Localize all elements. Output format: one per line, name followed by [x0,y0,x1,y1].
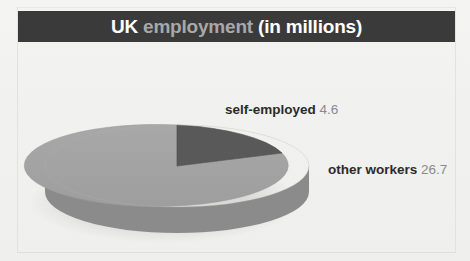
slice-label-self-employed: self-employed 4.6 [225,103,338,117]
pie-chart-svg [18,43,455,252]
title-subject: employment [143,16,253,37]
slice-label-other-workers-name: other workers [328,162,417,177]
slice-label-other-workers-value: 26.7 [421,162,447,177]
title-brand: UK [111,16,138,37]
plot-area: self-employed 4.6 other workers 26.7 [18,43,455,252]
frame-rule-top [17,7,456,8]
page-title: UK employment (in millions) [111,17,362,36]
slice-label-self-employed-value: 4.6 [320,102,339,117]
slice-label-self-employed-name: self-employed [225,102,316,117]
title-unit: (in millions) [258,16,362,37]
frame-rule-bottom [17,252,456,253]
slice-label-other-workers: other workers 26.7 [328,163,447,177]
frame-rule-right [455,7,456,253]
chart-figure: UK employment (in millions) [0,0,470,261]
chart-title-bar: UK employment (in millions) [18,11,455,42]
